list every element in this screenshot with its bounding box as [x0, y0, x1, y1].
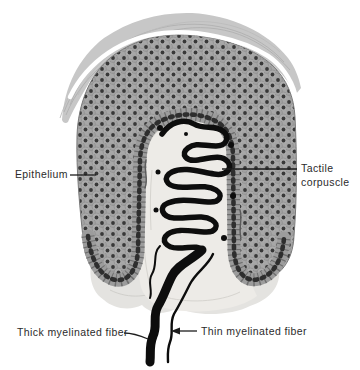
- label-epithelium: Epithelium: [15, 168, 68, 181]
- label-thin-myelinated-fiber: Thin myelinated fiber: [201, 325, 307, 338]
- label-tactile-corpuscle-line2: corpuscle: [301, 175, 350, 189]
- label-thick-myelinated-fiber: Thick myelinated fiber: [17, 326, 128, 339]
- label-tactile-corpuscle-line1: Tactile: [301, 161, 350, 175]
- illustration-canvas: Epithelium Tactile corpuscle Thick myeli…: [0, 0, 360, 370]
- label-tactile-corpuscle: Tactile corpuscle: [301, 161, 350, 189]
